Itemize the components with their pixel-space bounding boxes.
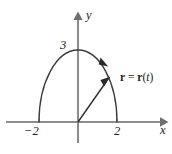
position-vector-line bbox=[78, 82, 106, 122]
x-tick-label-2: 2 bbox=[114, 125, 120, 138]
figure-container: y x 3 −2 2 r = r(t) bbox=[0, 0, 172, 154]
position-vector bbox=[78, 77, 111, 122]
y-axis bbox=[73, 12, 82, 144]
x-axis-label: x bbox=[160, 124, 166, 137]
y-tick-label-3: 3 bbox=[60, 39, 66, 52]
y-axis-label: y bbox=[86, 9, 92, 22]
vector-label-paren-close: ) bbox=[150, 71, 154, 83]
vector-label-equals: = bbox=[125, 71, 137, 83]
curve-direction-arrowhead bbox=[99, 58, 109, 67]
position-vector-arrowhead bbox=[100, 77, 110, 87]
position-vector-label: r = r(t) bbox=[120, 72, 153, 84]
y-axis-arrowhead bbox=[73, 12, 82, 21]
x-tick-label-neg2: −2 bbox=[24, 125, 39, 138]
